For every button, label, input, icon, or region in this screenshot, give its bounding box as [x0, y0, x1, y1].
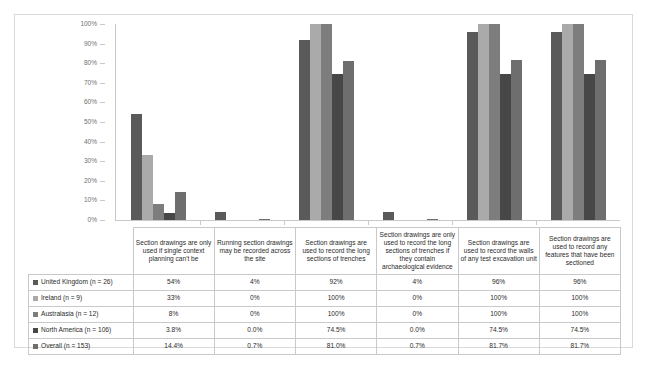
y-axis-tick-mark [100, 102, 105, 103]
y-axis-tick-mark [100, 83, 105, 84]
table-cell-value: 0% [214, 291, 295, 307]
table-cell-value: 92% [296, 275, 377, 291]
y-axis-tick-label: 10% [84, 197, 97, 204]
table-cell-value: 81.0% [296, 339, 377, 355]
legend-label: United Kingdom (n = 26) [41, 278, 113, 285]
y-axis-tick-label: 30% [84, 158, 97, 165]
bar [427, 219, 438, 220]
bar [175, 192, 186, 220]
legend-label: Overall (n = 153) [41, 342, 90, 349]
table-row: Overall (n = 153)14.4%0.7%81.0%0.7%81.7%… [29, 339, 621, 355]
table-cell-value: 100% [539, 291, 620, 307]
y-axis-tick-label: 100% [80, 21, 97, 28]
table-cell-value: 33% [133, 291, 214, 307]
legend-label: Australasia (n = 12) [41, 310, 98, 317]
legend-entry: North America (n = 106) [29, 323, 134, 339]
x-axis-tick-mark [368, 220, 369, 225]
legend-entry: Australasia (n = 12) [29, 307, 134, 323]
table-cell-value: 0.7% [377, 339, 458, 355]
y-axis-tick-mark [100, 44, 105, 45]
plot-area: 100%90%80%70%60%50%40%30%20%10%0% [15, 15, 634, 227]
table-cell-value: 74.5% [539, 323, 620, 339]
legend-swatch-icon [33, 328, 38, 333]
table-cell-value: 4% [214, 275, 295, 291]
y-axis-tick-mark [100, 63, 105, 64]
table-cell-value: 74.5% [296, 323, 377, 339]
table-cell-value: 3.8% [133, 323, 214, 339]
table-column-header: Running section drawings may be recorded… [214, 228, 295, 275]
x-axis-tick-mark [200, 220, 201, 225]
y-axis-tick-label: 80% [84, 60, 97, 67]
legend-swatch-icon [33, 296, 38, 301]
bar [321, 24, 332, 220]
y-axis-tick-label: 60% [84, 99, 97, 106]
bar [467, 32, 478, 220]
data-table-wrap: Section drawings are only used if single… [28, 227, 621, 339]
table-cell-value: 100% [296, 307, 377, 323]
y-axis-tick-label: 50% [84, 119, 97, 126]
bar [489, 24, 500, 220]
table-row: United Kingdom (n = 26)54%4%92%4%96%96% [29, 275, 621, 291]
bar [142, 155, 153, 220]
y-axis-tick-label: 40% [84, 138, 97, 145]
legend-swatch-icon [33, 344, 38, 349]
table-corner-cell [29, 228, 134, 275]
x-axis-tick-mark [536, 220, 537, 225]
y-axis-tick-label: 20% [84, 178, 97, 185]
table-cell-value: 0% [214, 307, 295, 323]
legend-label: Ireland (n = 9) [41, 294, 82, 301]
y-axis-tick-mark [100, 24, 105, 25]
table-column-header: Section drawings are only used if single… [133, 228, 214, 275]
table-column-header: Section drawings are used to record the … [458, 228, 539, 275]
bar [310, 24, 321, 220]
legend-entry: Overall (n = 153) [29, 339, 134, 355]
table-column-header: Section drawings are only used to record… [377, 228, 458, 275]
bar [562, 24, 573, 220]
table-cell-value: 0% [377, 291, 458, 307]
y-axis-tick-mark [100, 142, 105, 143]
bar [595, 60, 606, 220]
table-header-row: Section drawings are only used if single… [29, 228, 621, 275]
legend-swatch-icon [33, 312, 38, 317]
table-row: Ireland (n = 9)33%0%100%0%100%100% [29, 291, 621, 307]
data-table: Section drawings are only used if single… [28, 227, 621, 355]
y-axis-tick-mark [100, 181, 105, 182]
table-cell-value: 0% [377, 307, 458, 323]
chart-frame: 100%90%80%70%60%50%40%30%20%10%0% Sectio… [14, 14, 633, 348]
bar [343, 61, 354, 220]
table-cell-value: 81.7% [458, 339, 539, 355]
table-cell-value: 100% [296, 291, 377, 307]
bar [164, 213, 175, 220]
bar [299, 40, 310, 220]
y-axis-tick-label: 0% [88, 217, 97, 224]
bar [573, 24, 584, 220]
legend-entry: United Kingdom (n = 26) [29, 275, 134, 291]
bar-group [536, 24, 620, 220]
table-cell-value: 0.7% [214, 339, 295, 355]
bar [215, 212, 226, 220]
legend-label: North America (n = 106) [41, 326, 111, 333]
x-axis-tick-mark [284, 220, 285, 225]
bar [153, 204, 164, 220]
y-axis-tick-mark [100, 220, 105, 221]
bar [500, 74, 511, 220]
table-cell-value: 100% [458, 291, 539, 307]
table-cell-value: 14.4% [133, 339, 214, 355]
bar [478, 24, 489, 220]
y-axis-tick-mark [100, 122, 105, 123]
table-cell-value: 4% [377, 275, 458, 291]
y-axis-tick-label: 70% [84, 80, 97, 87]
table-cell-value: 0.0% [377, 323, 458, 339]
bar [511, 60, 522, 220]
table-cell-value: 8% [133, 307, 214, 323]
table-column-header: Section drawings are used to record the … [296, 228, 377, 275]
y-axis: 100%90%80%70%60%50%40%30%20%10%0% [15, 15, 115, 227]
y-axis-tick-label: 90% [84, 40, 97, 47]
legend-swatch-icon [33, 280, 38, 285]
table-cell-value: 0.0% [214, 323, 295, 339]
bar-group [116, 24, 200, 220]
bar [584, 74, 595, 220]
table-cell-value: 74.5% [458, 323, 539, 339]
bar [131, 114, 142, 220]
table-column-header: Section drawings are used to record any … [539, 228, 620, 275]
